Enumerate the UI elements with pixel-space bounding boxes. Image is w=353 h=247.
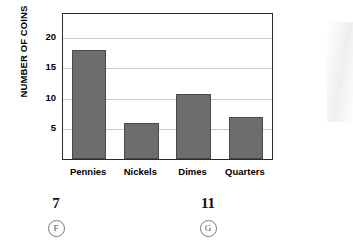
y-axis-tick-label: 5 xyxy=(34,123,56,133)
answer-choice[interactable]: 7F xyxy=(21,196,91,237)
x-axis-category-labels: PenniesNickelsDimesQuarters xyxy=(62,166,273,182)
bar xyxy=(176,94,210,159)
y-axis-tick-label: 15 xyxy=(34,63,56,73)
y-axis-tick-label: 20 xyxy=(34,32,56,42)
y-axis-tick-label: 10 xyxy=(34,93,56,103)
bars-layer xyxy=(63,14,272,159)
y-axis-title: NUMBER OF COINS xyxy=(18,0,29,107)
bar xyxy=(72,50,106,159)
answer-choice-value: 11 xyxy=(173,196,243,211)
x-axis-category-label: Pennies xyxy=(70,166,106,177)
answer-choice-value: 7 xyxy=(21,196,91,211)
bar xyxy=(124,123,158,159)
bar xyxy=(229,117,263,159)
answer-choices: 7F11G xyxy=(0,196,290,247)
x-axis-category-label: Dimes xyxy=(178,166,207,177)
answer-choice[interactable]: 11G xyxy=(173,196,243,237)
plot-area xyxy=(62,13,273,160)
y-axis-tick-labels: 5101520 xyxy=(34,14,56,160)
x-axis-category-label: Nickels xyxy=(124,166,157,177)
answer-choice-letter-bubble[interactable]: F xyxy=(48,220,65,237)
bar-chart-figure: NUMBER OF COINS 5101520 PenniesNickelsDi… xyxy=(0,0,290,190)
x-axis-category-label: Quarters xyxy=(225,166,265,177)
scan-artifact xyxy=(327,22,353,122)
answer-choice-letter-bubble[interactable]: G xyxy=(200,220,217,237)
